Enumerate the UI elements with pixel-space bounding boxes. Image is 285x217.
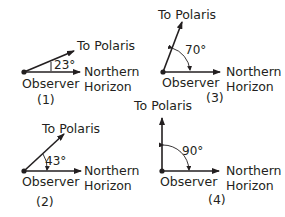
- horizon-label-line1: Northern: [226, 65, 282, 79]
- horizon-label-line2: Horizon: [226, 179, 274, 193]
- angle-label: 23°: [54, 59, 75, 72]
- observer-dot: [21, 69, 26, 74]
- observer-label: Observer: [160, 175, 217, 189]
- angle-label: 90°: [182, 145, 203, 158]
- observer-dot: [21, 168, 26, 173]
- polaris-altitude-diagrams: To Polaris 23° Northern Horizon Observer…: [0, 0, 285, 217]
- angle-label: 43°: [45, 155, 66, 168]
- polaris-label: To Polaris: [158, 8, 216, 22]
- horizon-label-line2: Horizon: [84, 179, 132, 193]
- observer-label: Observer: [162, 76, 219, 90]
- polaris-arrow: [163, 22, 182, 72]
- polaris-label: To Polaris: [77, 39, 135, 53]
- diagram-number: (1): [37, 93, 55, 107]
- horizon-label-line1: Northern: [84, 164, 140, 178]
- diagram-number: (4): [208, 193, 226, 207]
- observer-dot: [160, 69, 165, 74]
- horizon-label-line1: Northern: [84, 65, 140, 79]
- horizon-label-line1: Northern: [226, 164, 282, 178]
- observer-label: Observer: [22, 77, 79, 91]
- horizon-label-line2: Horizon: [226, 80, 274, 94]
- observer-label: Observer: [22, 175, 79, 189]
- polaris-label: To Polaris: [134, 99, 192, 113]
- diagram-number: (2): [36, 195, 54, 209]
- angle-label: 70°: [185, 44, 206, 57]
- observer-dot: [159, 168, 164, 173]
- diagram-number: (3): [206, 91, 224, 105]
- polaris-label: To Polaris: [42, 122, 100, 136]
- horizon-label-line2: Horizon: [84, 80, 132, 94]
